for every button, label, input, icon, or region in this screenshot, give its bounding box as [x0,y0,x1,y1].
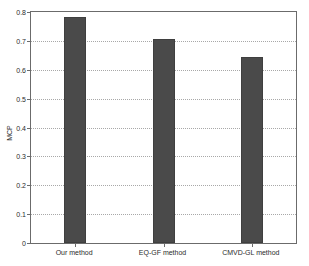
x-tick-label: Our method [56,249,93,256]
bar [153,39,175,243]
y-tick-mark [27,99,31,100]
y-tick-mark [27,156,31,157]
y-axis-title: MCP [6,125,13,141]
y-tick-label: 0 [22,240,26,247]
bar [241,57,263,243]
y-tick-mark [27,128,31,129]
y-tick-mark [27,214,31,215]
x-tick-mark [164,243,165,247]
x-tick-label: EQ-GF method [139,249,186,256]
chart-figure: MCP 00.10.20.30.40.50.60.70.8 Our method… [0,0,309,266]
y-tick-mark [27,185,31,186]
y-tick-label: 0.2 [16,182,26,189]
y-tick-mark [27,70,31,71]
y-tick-label: 0.7 [16,37,26,44]
y-tick-label: 0.5 [16,95,26,102]
y-tick-label: 0.8 [16,9,26,16]
y-tick-mark [27,243,31,244]
x-tick-mark [75,243,76,247]
y-tick-label: 0.3 [16,153,26,160]
x-tick-mark [252,243,253,247]
plot-area: 00.10.20.30.40.50.60.70.8 [30,11,297,244]
y-tick-label: 0.4 [16,124,26,131]
y-tick-mark [27,12,31,13]
y-tick-label: 0.6 [16,66,26,73]
y-tick-mark [27,41,31,42]
x-tick-label: CMVD-GL method [222,249,279,256]
bar [64,17,86,243]
y-tick-label: 0.1 [16,211,26,218]
